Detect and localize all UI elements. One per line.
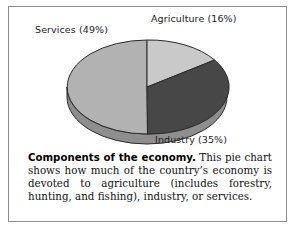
pie-chart-graphic <box>64 29 230 145</box>
caption-title: Components of the economy. <box>28 152 196 163</box>
pie-label-industry: Industry (35%) <box>155 134 227 145</box>
figure-frame: Services (49%) Agriculture (16%) Industr… <box>8 6 287 222</box>
pie-label-services: Services (49%) <box>35 24 108 35</box>
pie-label-agriculture: Agriculture (16%) <box>151 13 237 24</box>
figure-root: Services (49%) Agriculture (16%) Industr… <box>0 0 295 236</box>
pie-chart-area: Services (49%) Agriculture (16%) Industr… <box>9 7 288 147</box>
figure-caption: Components of the economy. This pie char… <box>28 151 272 203</box>
